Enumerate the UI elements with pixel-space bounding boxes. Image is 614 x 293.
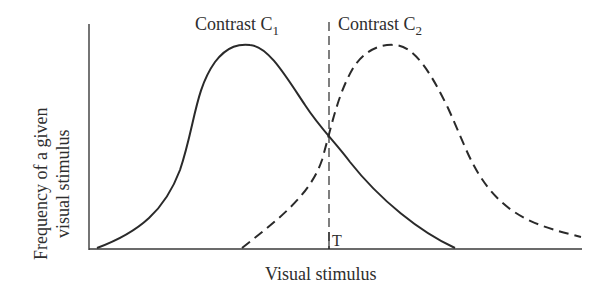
curve2-label: Contrast C2: [338, 14, 422, 38]
curve-contrast-c2: [242, 45, 581, 248]
y-axis-label: Frequency of a given visual stimulus: [31, 108, 73, 260]
y-axis-label-line1: Frequency of a given: [31, 108, 51, 260]
x-axis-label: Visual stimulus: [265, 264, 376, 284]
signal-detection-diagram: Contrast C1 Contrast C2 T Visual stimulu…: [0, 0, 614, 293]
y-axis-label-line2: visual stimulus: [53, 129, 73, 238]
curve1-label: Contrast C1: [195, 14, 279, 38]
curve-contrast-c1: [97, 45, 455, 248]
threshold-label: T: [332, 232, 342, 249]
